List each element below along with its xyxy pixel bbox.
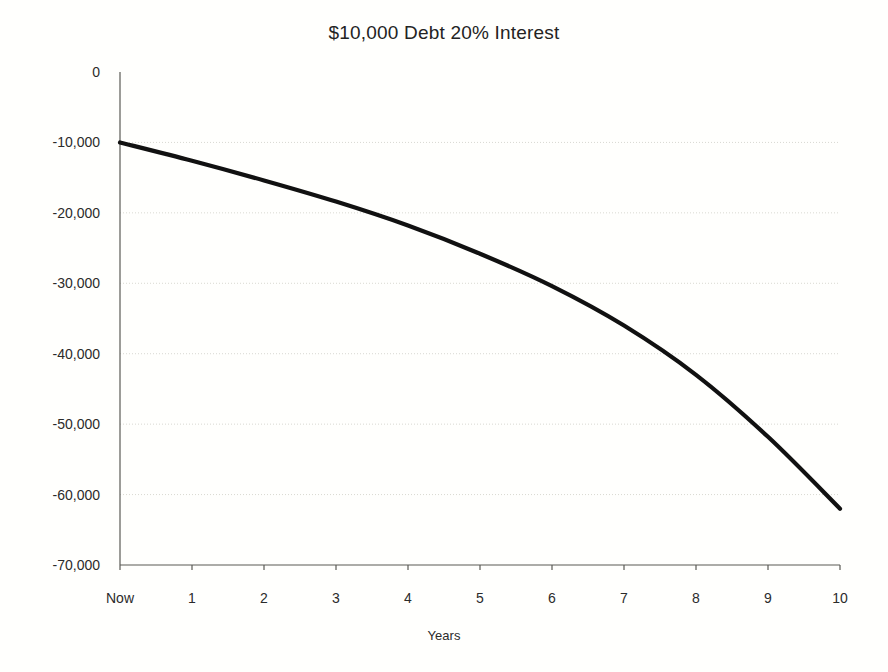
x-axis-tick-label: 4 [378,590,438,606]
y-axis-tick-label: 0 [14,64,100,80]
x-axis-tick-label: 3 [306,590,366,606]
y-axis-tick-label: -40,000 [14,346,100,362]
y-axis-tick-label: -70,000 [14,557,100,573]
x-axis-tick-label: 10 [810,590,870,606]
x-axis-tick-label: 7 [594,590,654,606]
plot-area [0,0,888,672]
x-axis-tick-label: 6 [522,590,582,606]
debt-curve [120,142,840,508]
x-axis-tick-label: Now [90,590,150,606]
y-axis-tick-label: -60,000 [14,487,100,503]
x-axis-tick-label: 9 [738,590,798,606]
y-axis-tick-label: -10,000 [14,134,100,150]
x-axis-tick-label: 5 [450,590,510,606]
x-axis-tick-label: 8 [666,590,726,606]
x-axis-ticks-group [120,565,840,570]
y-axis-tick-label: -50,000 [14,416,100,432]
y-axis-tick-label: -20,000 [14,205,100,221]
gridlines-group [120,142,840,494]
chart-container: $10,000 Debt 20% Interest 0-10,000-20,00… [0,0,888,672]
x-axis-tick-label: 1 [162,590,222,606]
x-axis-tick-label: 2 [234,590,294,606]
x-axis-title: Years [0,628,888,643]
y-axis-tick-label: -30,000 [14,275,100,291]
